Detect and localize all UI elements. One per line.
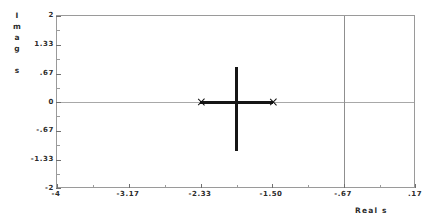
- y-tick-major: [56, 74, 61, 75]
- y-axis-title-letter: m: [12, 21, 22, 32]
- y-tick-minor: [56, 145, 60, 146]
- y-tick-minor: [56, 59, 60, 60]
- y-axis-title-spacer: [12, 54, 22, 65]
- y-tick-major: [56, 16, 61, 17]
- x-tick-label: -.67: [334, 190, 352, 198]
- imaginary-axis-line: [344, 16, 345, 187]
- x-tick-major: [201, 184, 202, 188]
- y-axis-title-letter: g: [12, 43, 22, 54]
- plot-area: [56, 15, 415, 188]
- x-tick-minor: [165, 185, 166, 188]
- y-tick-label: 1.33: [34, 40, 54, 48]
- y-tick-major: [56, 102, 61, 103]
- root-locus-figure: I m a g s 2 1.33 .67 0 -.67 -1.33 -2 -4 …: [0, 0, 433, 224]
- y-tick-minor: [56, 174, 60, 175]
- y-tick-major: [56, 160, 61, 161]
- x-tick-label: .17: [408, 190, 422, 198]
- y-tick-label: -1.33: [31, 155, 54, 163]
- x-tick-minor: [93, 185, 94, 188]
- y-tick-label: -.67: [36, 126, 54, 134]
- y-axis-title-letter: I: [12, 10, 22, 21]
- y-tick-label: 0: [49, 98, 54, 106]
- x-tick-label: -4: [52, 190, 61, 198]
- x-tick-major: [415, 184, 416, 188]
- y-axis-title-letter: a: [12, 32, 22, 43]
- x-tick-label: -2.33: [188, 190, 211, 198]
- x-tick-minor: [308, 185, 309, 188]
- x-tick-major: [272, 184, 273, 188]
- y-tick-label: 2: [49, 11, 54, 19]
- pole-marker-x-icon: [269, 98, 278, 107]
- x-tick-major: [129, 184, 130, 188]
- x-tick-minor: [380, 185, 381, 188]
- y-tick-major: [56, 45, 61, 46]
- x-axis-title: Real s: [355, 206, 388, 215]
- locus-complex-branch: [235, 67, 238, 151]
- x-tick-label: -1.50: [259, 190, 282, 198]
- y-tick-minor: [56, 30, 60, 31]
- y-tick-minor: [56, 116, 60, 117]
- y-axis-title-letter: s: [12, 65, 22, 76]
- y-tick-major: [56, 188, 61, 189]
- y-tick-major: [56, 131, 61, 132]
- y-axis-title: I m a g s: [12, 10, 22, 76]
- x-tick-label: -3.17: [116, 190, 139, 198]
- x-tick-minor: [237, 185, 238, 188]
- x-tick-major: [344, 184, 345, 188]
- pole-marker-x-icon: [197, 98, 206, 107]
- y-tick-label: .67: [40, 69, 54, 77]
- y-tick-minor: [56, 88, 60, 89]
